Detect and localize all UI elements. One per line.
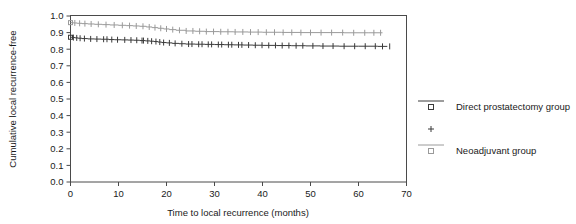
- y-tick-label: 1.0: [50, 10, 63, 21]
- kaplan-meier-figure: 0.00.10.20.30.40.50.60.70.80.91.0 010203…: [0, 0, 576, 224]
- x-tick-label: 70: [401, 188, 412, 199]
- chart-svg: 0.00.10.20.30.40.50.60.70.80.91.0 010203…: [0, 0, 576, 224]
- legend-entry-label: Neoadjuvant group: [456, 145, 536, 156]
- y-tick-label: 0.6: [50, 77, 63, 88]
- y-tick-label: 0.5: [50, 93, 63, 104]
- y-tick-label: 0.7: [50, 60, 63, 71]
- x-tick-label: 60: [353, 188, 364, 199]
- x-tick-label: 40: [257, 188, 268, 199]
- y-tick-label: 0.8: [50, 44, 63, 55]
- y-tick-label: 0.9: [50, 27, 63, 38]
- x-tick-label: 20: [161, 188, 172, 199]
- x-axis-title: Time to local recurrence (months): [167, 207, 309, 218]
- y-axis-title: Cumulative local recurrence-free: [7, 30, 18, 167]
- y-tick-label: 0.1: [50, 160, 63, 171]
- figure-background: [0, 0, 576, 224]
- y-tick-label: 0.2: [50, 143, 63, 154]
- y-tick-label: 0.0: [50, 176, 63, 187]
- y-tick-label: 0.4: [50, 110, 63, 121]
- x-tick-label: 10: [113, 188, 124, 199]
- x-tick-label: 30: [209, 188, 220, 199]
- x-tick-label: 0: [68, 188, 73, 199]
- y-tick-label: 0.3: [50, 127, 63, 138]
- legend-entry-label: Direct prostatectomy group: [456, 101, 570, 112]
- x-tick-label: 50: [305, 188, 316, 199]
